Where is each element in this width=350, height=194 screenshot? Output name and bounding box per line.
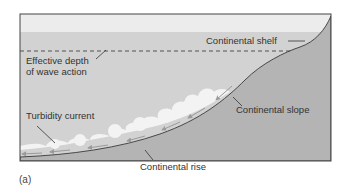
label-turbidity-current: Turbidity current bbox=[26, 110, 95, 121]
label-effective-depth-1: Effective depth bbox=[26, 55, 89, 66]
surface-band bbox=[20, 14, 331, 32]
label-effective-depth-2: of wave action bbox=[26, 66, 87, 77]
label-continental-slope: Continental slope bbox=[236, 104, 309, 115]
label-continental-shelf: Continental shelf bbox=[206, 35, 277, 46]
continental-margin-diagram: Continental shelf Effective depth of wav… bbox=[0, 0, 350, 194]
label-continental-rise: Continental rise bbox=[140, 161, 206, 172]
figure-caption: (a) bbox=[19, 174, 31, 185]
